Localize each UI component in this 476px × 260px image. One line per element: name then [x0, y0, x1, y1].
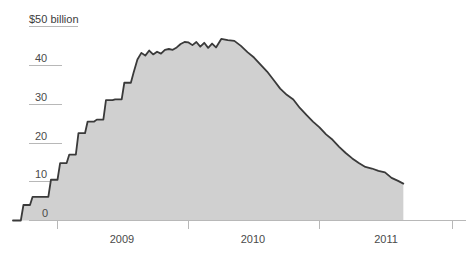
- y-tick-label-30: 30: [35, 91, 47, 103]
- chart-container: $50 billion 40 30 20 10 0 2009 2010 2011: [0, 0, 476, 260]
- area-chart: $50 billion 40 30 20 10 0 2009 2010 2011: [0, 0, 476, 260]
- y-tick-label-0: 0: [42, 207, 48, 219]
- x-tick-label-2010: 2010: [241, 233, 265, 245]
- area-fill: [13, 39, 403, 221]
- y-tick-label-10: 10: [35, 168, 47, 180]
- y-axis-title-label: $50 billion: [29, 13, 79, 25]
- x-tick-label-2011: 2011: [374, 233, 398, 245]
- y-tick-label-40: 40: [35, 52, 47, 64]
- x-axis-ticks: [58, 221, 453, 230]
- y-tick-label-20: 20: [35, 130, 47, 142]
- x-tick-label-2009: 2009: [110, 233, 134, 245]
